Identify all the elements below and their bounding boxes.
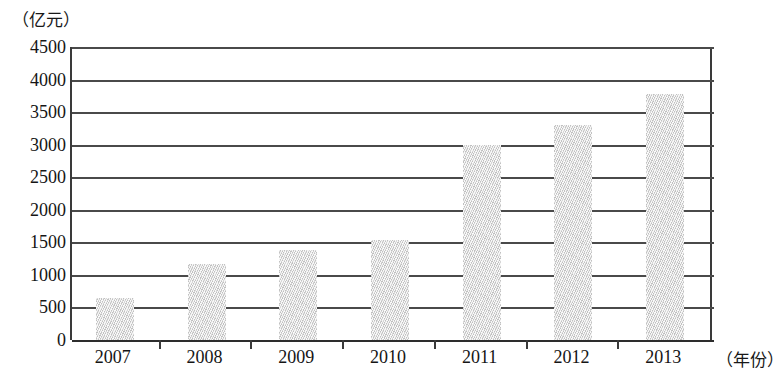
bar-chart: （亿元） （年份） 050010001500200025003000350040… (0, 0, 778, 372)
y-axis-tick-label: 4500 (6, 38, 66, 56)
bar (646, 94, 684, 340)
x-axis-tick-label: 2011 (435, 347, 525, 367)
y-axis-unit-label: （亿元） (12, 6, 80, 31)
plot-area (70, 47, 712, 340)
bar (554, 125, 592, 340)
bar (371, 240, 409, 340)
y-axis-tick-label: 1000 (6, 266, 66, 284)
x-axis-tick-label: 2010 (343, 347, 433, 367)
y-axis-tick-label: 500 (6, 298, 66, 316)
bar (188, 264, 226, 340)
gridline (72, 80, 714, 82)
y-axis-tick-label: 3500 (6, 103, 66, 121)
y-axis-tick-label: 4000 (6, 71, 66, 89)
x-axis-tick-label: 2008 (160, 347, 250, 367)
y-axis-tick-label: 1500 (6, 233, 66, 251)
bar (279, 250, 317, 340)
y-axis-tick-label: 2000 (6, 201, 66, 219)
gridline (72, 112, 714, 114)
bar (96, 298, 134, 340)
y-axis-tick-label: 3000 (6, 136, 66, 154)
gridline (72, 210, 714, 212)
gridline (72, 47, 714, 49)
bar (463, 145, 501, 340)
gridline (72, 145, 714, 147)
y-axis-tick-label: 2500 (6, 168, 66, 186)
x-axis-tick-label: 2013 (618, 347, 708, 367)
x-axis-tick-label: 2007 (68, 347, 158, 367)
y-axis-tick-label: 0 (6, 331, 66, 349)
x-axis-tick-label: 2012 (526, 347, 616, 367)
gridline (72, 177, 714, 179)
x-axis-tick-label: 2009 (251, 347, 341, 367)
x-axis-unit-label: （年份） (716, 346, 778, 371)
